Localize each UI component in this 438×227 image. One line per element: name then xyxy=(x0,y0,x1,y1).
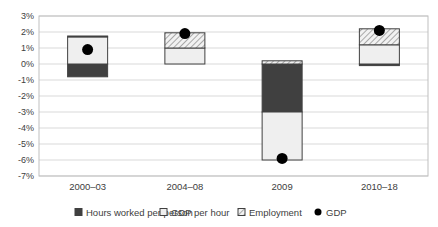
y-tick-label: -4% xyxy=(18,123,34,133)
y-tick-label: 2% xyxy=(21,27,34,37)
bar-segment-employment xyxy=(262,61,302,64)
bar-segment-hours-worked-per-person xyxy=(262,64,302,112)
bar-segment-gdp-per-hour xyxy=(262,112,302,160)
legend-hatched-square-icon xyxy=(238,209,245,216)
y-tick-label: 1% xyxy=(21,43,34,53)
x-tick-label: 2000–03 xyxy=(69,181,106,192)
legend-light-square-icon xyxy=(160,209,167,216)
y-axis-ticks: 3%2%1%0%-1%-2%-3%-4%-5%-6%-7% xyxy=(18,11,34,181)
stacked-bar-chart: 3%2%1%0%-1%-2%-3%-4%-5%-6%-7% 2000–03200… xyxy=(0,0,438,227)
y-tick-label: 3% xyxy=(21,11,34,21)
y-tick-label: 0% xyxy=(21,59,34,69)
bar-segment-gdp-per-hour xyxy=(359,45,399,64)
legend-label: Employment xyxy=(249,207,302,218)
legend-dark-square-icon xyxy=(75,209,82,216)
gdp-marker xyxy=(82,44,93,55)
bar-segment-gdp-per-hour xyxy=(165,48,205,64)
x-tick-label: 2004–08 xyxy=(166,181,203,192)
x-tick-label: 2009 xyxy=(272,181,293,192)
y-tick-label: -6% xyxy=(18,155,34,165)
legend: Hours worked per personGDP per hourEmplo… xyxy=(75,207,347,218)
bar-segment-hours-worked-per-person xyxy=(68,64,108,77)
legend-label: GDP per hour xyxy=(171,207,229,218)
y-tick-label: -3% xyxy=(18,107,34,117)
gdp-marker xyxy=(277,153,288,164)
y-tick-label: -7% xyxy=(18,171,34,181)
x-tick-label: 2010–18 xyxy=(361,181,398,192)
y-tick-label: -1% xyxy=(18,75,34,85)
legend-label: GDP xyxy=(326,207,347,218)
gdp-marker xyxy=(374,25,385,36)
gdp-marker xyxy=(179,28,190,39)
y-tick-label: -5% xyxy=(18,139,34,149)
legend-gdp-icon xyxy=(315,209,322,216)
bar-segment-employment xyxy=(68,36,108,37)
y-tick-label: -2% xyxy=(18,91,34,101)
x-axis-labels: 2000–032004–0820092010–18 xyxy=(69,181,398,192)
gdp-markers xyxy=(82,25,385,164)
